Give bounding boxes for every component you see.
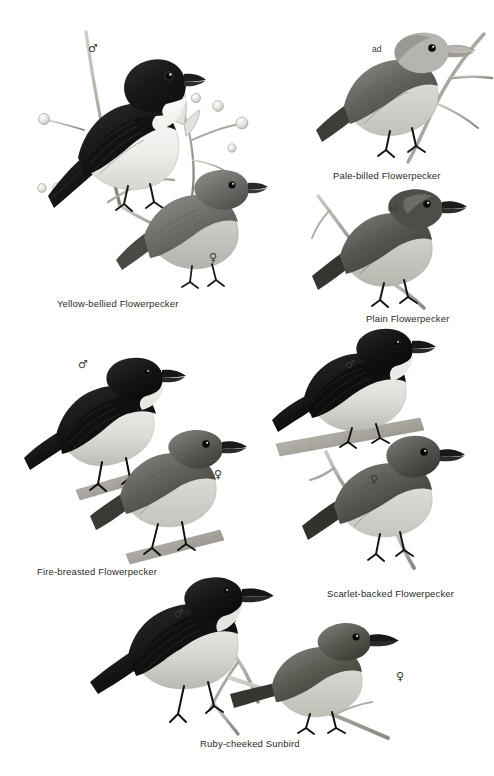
figure-pale-billed-adult	[312, 30, 494, 170]
bird-plate: ♂ ♀ ad ad ♂ ♀ ♂ ♀ ♂ ♀ Yellow-bellied Flo…	[0, 0, 494, 776]
bird-ruby-cheeked-female	[230, 623, 399, 734]
age-label-plain: ad	[388, 204, 397, 213]
bird-yellow-bellied-female	[116, 170, 268, 288]
figure-ruby-cheeked-female	[228, 636, 408, 746]
figure-fire-breasted-female	[88, 442, 268, 570]
sex-symbol-female-scarlet-backed: ♀	[370, 474, 378, 485]
sex-symbol-female-fire-breasted: ♀	[214, 469, 222, 480]
figure-scarlet-backed-female	[300, 440, 480, 570]
figure-plain-adult	[310, 190, 486, 314]
age-label-pale-billed: ad	[372, 45, 381, 54]
perch-fire-breasted-female	[126, 530, 224, 564]
caption-yellow-bellied-flowerpecker: Yellow-bellied Flowerpecker	[57, 298, 178, 309]
caption-plain-flowerpecker: Plain Flowerpecker	[366, 313, 449, 324]
sex-symbol-male-yellow-bellied: ♂	[88, 43, 98, 54]
caption-ruby-cheeked-sunbird: Ruby-cheeked Sunbird	[200, 738, 300, 749]
caption-scarlet-backed-flowerpecker: Scarlet-backed Flowerpecker	[327, 588, 454, 599]
figure-yellow-bellied-female	[110, 168, 290, 298]
bird-pale-billed-adult	[316, 32, 475, 157]
sex-symbol-female-yellow-bellied: ♀	[209, 252, 217, 263]
caption-pale-billed-flowerpecker: Pale-billed Flowerpecker	[333, 170, 441, 181]
sex-symbol-male-scarlet-backed: ♂	[345, 359, 355, 370]
sex-symbol-female-ruby-cheeked: ♀	[396, 671, 404, 682]
caption-fire-breasted-flowerpecker: Fire-breasted Flowerpecker	[37, 566, 157, 577]
sex-symbol-male-ruby-cheeked: ♂	[174, 608, 184, 619]
bird-fire-breasted-female	[90, 430, 247, 555]
sex-symbol-male-fire-breasted: ♂	[78, 359, 88, 370]
